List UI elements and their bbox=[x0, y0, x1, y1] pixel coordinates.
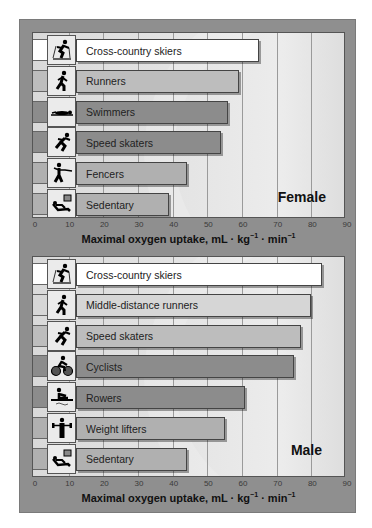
swimmer-icon bbox=[47, 97, 76, 127]
x-tick-label: 50 bbox=[204, 220, 213, 229]
bar-stub bbox=[33, 386, 47, 408]
sedentary-icon bbox=[47, 444, 76, 474]
bar-row: Cyclists bbox=[33, 351, 345, 381]
bar-row: Speed skaters bbox=[33, 127, 345, 157]
bar-stub bbox=[33, 193, 47, 215]
bar-label: Cross-country skiers bbox=[77, 269, 182, 281]
bar-label: Cross-country skiers bbox=[77, 45, 182, 57]
bar: Cyclists bbox=[76, 355, 294, 378]
female-plot-area: Cross-country skiersRunnersSwimmersSpeed… bbox=[32, 32, 345, 218]
male-label: Male bbox=[291, 442, 322, 458]
x-tick-label: 90 bbox=[343, 220, 352, 229]
bar: Weight lifters bbox=[76, 417, 225, 440]
runner-icon bbox=[47, 290, 76, 320]
bar-label: Speed skaters bbox=[77, 137, 153, 149]
x-axis-label-exponent: −1 bbox=[250, 491, 258, 498]
bar-label: Sedentary bbox=[77, 199, 134, 211]
bar-stub bbox=[33, 101, 47, 123]
x-tick-label: 50 bbox=[204, 479, 213, 488]
bar: Swimmers bbox=[76, 101, 228, 124]
cyclist-icon bbox=[47, 351, 76, 381]
x-tick-label: 30 bbox=[135, 479, 144, 488]
x-tick-label: 90 bbox=[343, 479, 352, 488]
bar-stub bbox=[33, 39, 47, 61]
bar-stub bbox=[33, 131, 47, 153]
bar: Speed skaters bbox=[76, 131, 221, 154]
x-tick-label: 40 bbox=[169, 479, 178, 488]
weightlifter-icon bbox=[47, 413, 76, 443]
female-x-ticks: 0102030405060708090 bbox=[32, 220, 345, 232]
male-x-axis-label: Maximal oxygen uptake, mL · kg−1 · min−1 bbox=[32, 491, 345, 504]
bar-row: Cross-country skiers bbox=[33, 35, 345, 65]
x-tick-label: 0 bbox=[33, 479, 37, 488]
bar-label: Weight lifters bbox=[77, 423, 147, 435]
x-tick-label: 0 bbox=[33, 220, 37, 229]
x-axis-label-exponent: −1 bbox=[287, 491, 295, 498]
bar-label: Cyclists bbox=[77, 361, 122, 373]
male-plot-area: Cross-country skiersMiddle-distance runn… bbox=[32, 256, 345, 477]
bar-row: Weight lifters bbox=[33, 413, 345, 443]
bar-stub bbox=[33, 70, 47, 92]
bar-stub bbox=[33, 294, 47, 316]
x-axis-label-text: Maximal oxygen uptake, mL · kg bbox=[82, 492, 251, 504]
sedentary-icon bbox=[47, 189, 76, 218]
bar: Fencers bbox=[76, 162, 187, 185]
x-tick-label: 10 bbox=[65, 479, 74, 488]
x-tick-label: 80 bbox=[308, 479, 317, 488]
bar-row: Middle-distance runners bbox=[33, 290, 345, 320]
bar-label: Speed skaters bbox=[77, 330, 153, 342]
x-tick-label: 10 bbox=[65, 220, 74, 229]
bar-stub bbox=[33, 325, 47, 347]
bar: Speed skaters bbox=[76, 325, 301, 348]
bar-row: Runners bbox=[33, 66, 345, 96]
bar: Cross-country skiers bbox=[76, 39, 259, 62]
x-tick-label: 80 bbox=[308, 220, 317, 229]
skater-icon bbox=[47, 321, 76, 351]
male-panel: Cross-country skiersMiddle-distance runn… bbox=[32, 256, 345, 511]
bar-row: Speed skaters bbox=[33, 321, 345, 351]
female-x-axis-label: Maximal oxygen uptake, mL · kg−1 · min−1 bbox=[32, 232, 345, 245]
bar: Sedentary bbox=[76, 193, 169, 216]
skier-icon bbox=[47, 35, 76, 65]
x-tick-label: 40 bbox=[169, 220, 178, 229]
figure-frame: Cross-country skiersRunnersSwimmersSpeed… bbox=[19, 19, 356, 513]
male-x-ticks: 0102030405060708090 bbox=[32, 479, 345, 491]
bar-label: Fencers bbox=[77, 168, 124, 180]
runner-icon bbox=[47, 66, 76, 96]
bar-label: Middle-distance runners bbox=[77, 299, 198, 311]
bar: Sedentary bbox=[76, 448, 187, 471]
rower-icon bbox=[47, 382, 76, 412]
x-axis-label-text: · min bbox=[258, 233, 287, 245]
skater-icon bbox=[47, 127, 76, 157]
x-axis-label-exponent: −1 bbox=[287, 232, 295, 239]
skier-icon bbox=[47, 259, 76, 289]
bar-stub bbox=[33, 355, 47, 377]
x-tick-label: 70 bbox=[273, 220, 282, 229]
x-axis-label-exponent: −1 bbox=[250, 232, 258, 239]
x-tick-label: 60 bbox=[239, 479, 248, 488]
fencer-icon bbox=[47, 158, 76, 188]
bar-label: Swimmers bbox=[77, 106, 135, 118]
bar-label: Rowers bbox=[77, 392, 122, 404]
x-tick-label: 20 bbox=[100, 479, 109, 488]
bar-row: Cross-country skiers bbox=[33, 259, 345, 289]
bar-label: Sedentary bbox=[77, 453, 134, 465]
bar-row: Rowers bbox=[33, 382, 345, 412]
x-axis-label-text: Maximal oxygen uptake, mL · kg bbox=[82, 233, 251, 245]
x-tick-label: 30 bbox=[135, 220, 144, 229]
bar: Cross-country skiers bbox=[76, 263, 322, 286]
bar-stub bbox=[33, 263, 47, 285]
bar: Runners bbox=[76, 70, 239, 93]
bar-row: Fencers bbox=[33, 158, 345, 188]
bar-row: Swimmers bbox=[33, 97, 345, 127]
bar-stub bbox=[33, 417, 47, 439]
bar: Middle-distance runners bbox=[76, 294, 311, 317]
bar: Rowers bbox=[76, 386, 245, 409]
bar-label: Runners bbox=[77, 75, 126, 87]
x-tick-label: 20 bbox=[100, 220, 109, 229]
bar-stub bbox=[33, 162, 47, 184]
bar-stub bbox=[33, 448, 47, 470]
x-axis-label-text: · min bbox=[258, 492, 287, 504]
x-tick-label: 60 bbox=[239, 220, 248, 229]
x-tick-label: 70 bbox=[273, 479, 282, 488]
